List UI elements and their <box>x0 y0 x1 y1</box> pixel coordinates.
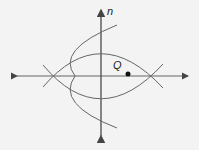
construction-diagram: Q n <box>0 0 199 150</box>
line-n-label: n <box>107 5 113 17</box>
point-q-label: Q <box>113 59 122 71</box>
point-q <box>126 72 131 77</box>
diagram-canvas: Q n <box>0 0 199 150</box>
